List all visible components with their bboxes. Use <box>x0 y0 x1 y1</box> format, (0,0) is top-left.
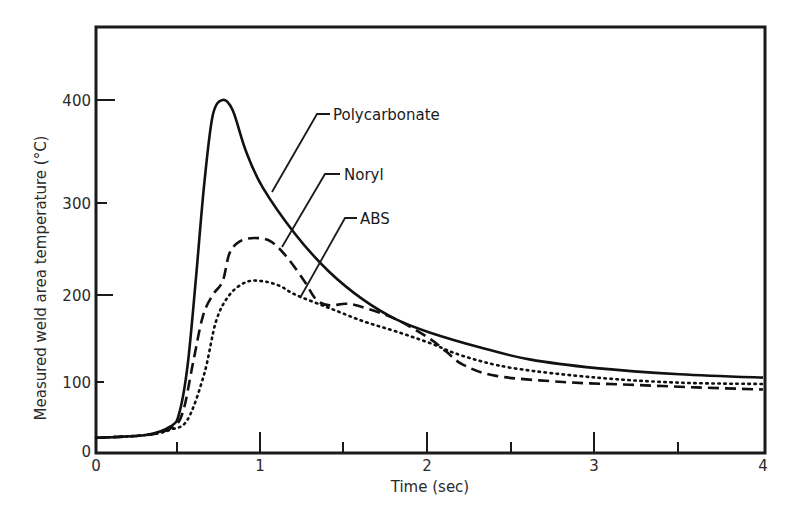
x-axis-label: Time (sec) <box>390 478 469 496</box>
abs-label: ABS <box>360 210 390 228</box>
y-axis-label: Measured weld area temperature (°C) <box>32 136 50 421</box>
y-tick-label: 0 <box>81 443 91 461</box>
polycarbonate-label: Polycarbonate <box>333 106 440 124</box>
noryl-label: Noryl <box>344 166 384 184</box>
y-tick-label: 200 <box>62 287 91 305</box>
noryl-leader-line <box>282 174 340 247</box>
abs-leader-line <box>300 218 357 298</box>
x-tick-label: 2 <box>422 457 432 475</box>
x-tick-label: 4 <box>758 457 768 475</box>
y-tick-label: 100 <box>62 374 91 392</box>
x-axis: 0 1 2 3 4 Time (sec) <box>91 432 768 496</box>
x-tick-label: 0 <box>91 457 101 475</box>
x-tick-label: 3 <box>589 457 599 475</box>
series-abs-line <box>96 281 763 438</box>
plot-frame <box>96 27 765 453</box>
y-axis: 400 300 200 100 0 Measured weld area tem… <box>32 92 115 461</box>
y-tick-label: 400 <box>62 92 91 110</box>
x-tick-label: 1 <box>255 457 265 475</box>
y-tick-label: 300 <box>62 195 91 213</box>
chart-canvas: 0 1 2 3 4 Time (sec) 400 300 200 100 0 M… <box>0 0 797 515</box>
